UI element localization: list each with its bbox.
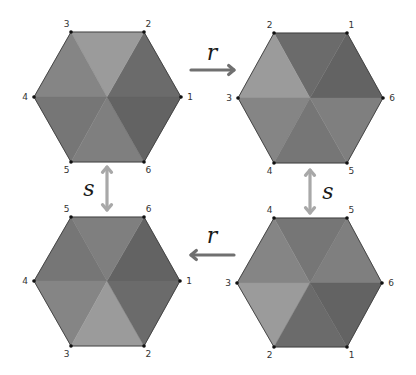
vertex-label: 4: [22, 92, 28, 102]
operation-label-s: s: [322, 179, 333, 204]
vertex-label: 4: [22, 276, 28, 286]
vertex-dot: [142, 30, 146, 34]
vertex-dot: [69, 160, 73, 164]
arrow-r-top: r: [191, 40, 234, 75]
vertex-label: 1: [349, 20, 355, 30]
vertex-label: 4: [267, 166, 273, 176]
vertex-label: 5: [349, 166, 355, 176]
arrow-r-bottom: r: [191, 223, 234, 260]
vertex-label: 6: [146, 204, 152, 214]
vertex-dot: [235, 281, 239, 285]
vertex-label: 3: [226, 93, 232, 103]
vertex-dot: [32, 95, 36, 99]
vertex-label: 1: [187, 92, 193, 102]
vertex-dot: [381, 96, 385, 100]
vertex-label: 2: [267, 350, 273, 360]
diagram-canvas: 123456612345165432654321rrss: [0, 0, 416, 375]
vertex-label: 6: [388, 278, 394, 288]
vertex-label: 2: [146, 349, 152, 359]
vertex-dot: [272, 216, 276, 220]
vertex-label: 4: [267, 205, 273, 215]
operation-label-r: r: [207, 40, 219, 65]
vertex-dot: [69, 30, 73, 34]
vertex-label: 1: [349, 350, 355, 360]
vertex-dot: [345, 31, 349, 35]
vertex-label: 3: [64, 349, 70, 359]
vertex-dot: [345, 216, 349, 220]
vertex-dot: [345, 345, 349, 349]
vertex-dot: [69, 344, 73, 348]
vertex-label: 3: [225, 278, 231, 288]
vertex-label: 6: [146, 165, 152, 175]
vertex-dot: [32, 279, 36, 283]
vertex-label: 5: [349, 205, 355, 215]
operation-label-s: s: [83, 176, 94, 201]
arrow-s-right: s: [305, 170, 333, 213]
vertex-dot: [380, 281, 384, 285]
vertex-label: 1: [186, 276, 192, 286]
dihedral-diagram: 123456612345165432654321rrss: [0, 0, 416, 375]
vertex-dot: [272, 31, 276, 35]
vertex-dot: [179, 95, 183, 99]
vertex-label: 3: [64, 19, 70, 29]
hexagon-bottom-left: 165432: [22, 204, 192, 359]
vertex-dot: [236, 96, 240, 100]
hexagon-top-left: 123456: [22, 19, 193, 175]
vertex-label: 2: [267, 20, 273, 30]
hexagon-bottom-right: 654321: [225, 205, 394, 360]
vertex-dot: [178, 279, 182, 283]
vertex-label: 5: [64, 165, 70, 175]
vertex-dot: [142, 344, 146, 348]
vertex-label: 5: [64, 204, 70, 214]
operation-label-r: r: [207, 223, 219, 248]
vertex-label: 6: [389, 93, 395, 103]
hexagon-top-right: 612345: [226, 20, 395, 176]
vertex-dot: [272, 345, 276, 349]
vertex-dot: [69, 215, 73, 219]
vertex-label: 2: [146, 19, 152, 29]
vertex-dot: [272, 161, 276, 165]
vertex-dot: [142, 215, 146, 219]
vertex-dot: [142, 160, 146, 164]
arrow-s-left: s: [83, 167, 111, 210]
vertex-dot: [345, 161, 349, 165]
